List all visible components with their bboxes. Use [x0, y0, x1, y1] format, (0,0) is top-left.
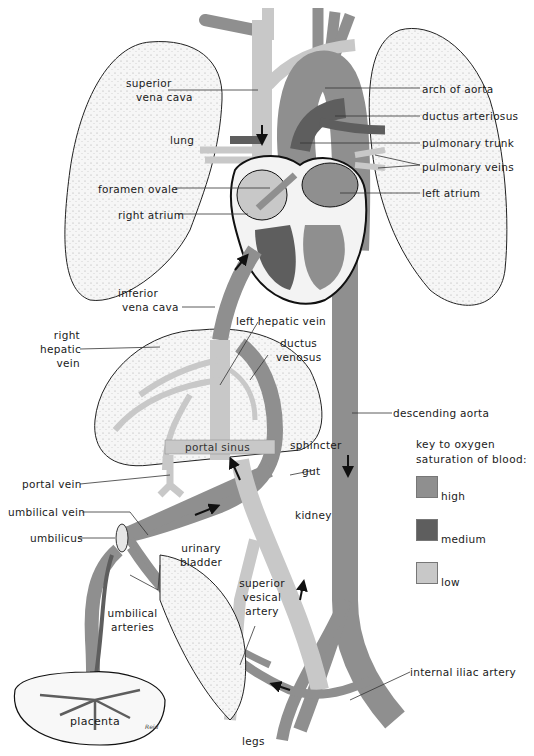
label-line: vena cava — [118, 300, 179, 314]
urinary-bladder — [160, 555, 246, 720]
label-right-hepatic-vein: right hepatic vein — [40, 328, 80, 370]
label-inferior-vena-cava: inferior vena cava — [118, 286, 179, 314]
label-placenta: placenta — [70, 715, 120, 729]
label-superior-vesical-artery: superior vesical artery — [237, 576, 287, 618]
label-sphincter: sphincter — [290, 438, 342, 452]
legend-swatch-high — [416, 476, 438, 498]
legend-item-low: low — [416, 562, 460, 584]
label-foramen-ovale: foramen ovale — [98, 182, 178, 196]
label-superior-vena-cava: superior vena cava — [126, 76, 193, 104]
legend-title-line: saturation of blood: — [416, 452, 527, 467]
label-left-hepatic-vein: left hepatic vein — [236, 314, 326, 328]
legend-item-high: high — [416, 476, 465, 498]
label-line: bladder — [176, 555, 226, 569]
descending-aorta — [345, 250, 395, 720]
legend-title: key to oxygen saturation of blood: — [416, 437, 527, 467]
umbilicus-ring — [116, 524, 128, 552]
label-line: right — [40, 328, 80, 342]
label-umbilicus: umbilicus — [30, 531, 83, 545]
label-kidney: kidney — [295, 508, 332, 522]
label-descending-aorta: descending aorta — [393, 406, 489, 420]
label-portal-sinus: portal sinus — [185, 440, 250, 454]
legend-label: high — [441, 490, 465, 502]
label-line: vein — [40, 356, 80, 370]
label-line: ductus — [276, 336, 321, 350]
label-arch-of-aorta: arch of aorta — [422, 82, 493, 96]
label-line: arteries — [105, 620, 160, 634]
label-legs: legs — [242, 734, 265, 748]
label-line: inferior — [118, 286, 179, 300]
label-urinary-bladder: urinary bladder — [176, 541, 226, 569]
label-line: venosus — [276, 350, 321, 364]
label-line: vena cava — [126, 90, 193, 104]
label-right-atrium: right atrium — [118, 208, 184, 222]
label-line: superior — [237, 576, 287, 590]
label-line: hepatic — [40, 342, 80, 356]
label-pulmonary-trunk: pulmonary trunk — [422, 136, 514, 150]
legend-label: medium — [441, 533, 486, 545]
legend-label: low — [441, 576, 460, 588]
legend-swatch-low — [416, 562, 438, 584]
label-ductus-arteriosus: ductus arteriosus — [422, 109, 518, 123]
artist-signature: Reid — [145, 723, 158, 730]
legend-title-line: key to oxygen — [416, 437, 527, 452]
label-line: superior — [126, 76, 193, 90]
label-gut: gut — [302, 464, 320, 478]
label-ductus-venosus: ductus venosus — [276, 336, 321, 364]
fetal-circulation-diagram: superior vena cava lung foramen ovale ri… — [0, 0, 534, 756]
label-left-atrium: left atrium — [422, 186, 480, 200]
legend-swatch-medium — [416, 519, 438, 541]
label-umbilical-arteries: umbilical arteries — [105, 606, 160, 634]
label-line: urinary — [176, 541, 226, 555]
label-line: umbilical — [105, 606, 160, 620]
label-line: vesical — [237, 590, 287, 604]
label-portal-vein: portal vein — [22, 477, 82, 491]
label-lung: lung — [170, 133, 194, 147]
placenta — [14, 672, 165, 745]
legend-item-medium: medium — [416, 519, 486, 541]
label-internal-iliac-artery: internal iliac artery — [410, 665, 516, 679]
label-pulmonary-veins: pulmonary veins — [422, 160, 514, 174]
label-line: artery — [237, 604, 287, 618]
label-umbilical-vein: umbilical vein — [8, 505, 85, 519]
